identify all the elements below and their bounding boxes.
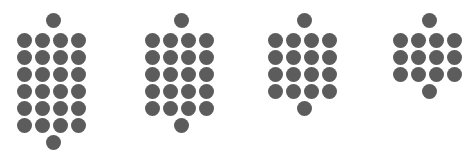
cluster-dot — [447, 33, 462, 48]
cluster-dot — [199, 50, 214, 65]
cluster-dot — [53, 84, 68, 99]
cluster-dot — [304, 50, 319, 65]
cluster-dot — [163, 50, 178, 65]
cluster-dot — [71, 84, 86, 99]
cluster-group-4 — [0, 0, 472, 156]
cluster-dot — [393, 33, 408, 48]
cluster-group-1 — [0, 0, 472, 156]
cluster-dot — [268, 84, 283, 99]
cluster-dot — [35, 50, 50, 65]
cluster-dot — [71, 67, 86, 82]
cluster-dot-bottom-cap — [174, 118, 189, 133]
cluster-dot — [163, 67, 178, 82]
cluster-dot — [268, 50, 283, 65]
cluster-dot — [145, 33, 160, 48]
cluster-dot — [393, 67, 408, 82]
cluster-dot — [163, 84, 178, 99]
cluster-dot — [393, 50, 408, 65]
cluster-group-2 — [0, 0, 472, 156]
cluster-dot — [447, 67, 462, 82]
cluster-dot — [163, 101, 178, 116]
cluster-group-3 — [0, 0, 472, 156]
cluster-dot — [17, 50, 32, 65]
cluster-dot — [53, 33, 68, 48]
cluster-dot — [447, 50, 462, 65]
cluster-dot — [53, 101, 68, 116]
cluster-dot — [35, 101, 50, 116]
cluster-dot — [429, 67, 444, 82]
cluster-dot — [268, 33, 283, 48]
cluster-dot — [71, 101, 86, 116]
cluster-dot — [199, 101, 214, 116]
cluster-dot-top-cap — [174, 13, 189, 28]
cluster-dot — [145, 67, 160, 82]
cluster-dot — [53, 118, 68, 133]
cluster-dot-top-cap — [422, 13, 437, 28]
cluster-dot — [322, 67, 337, 82]
cluster-dot — [304, 84, 319, 99]
cluster-dot-bottom-cap — [297, 101, 312, 116]
cluster-dot — [181, 50, 196, 65]
cluster-dot — [181, 67, 196, 82]
cluster-dot — [35, 118, 50, 133]
cluster-dot — [304, 33, 319, 48]
cluster-dot — [17, 67, 32, 82]
cluster-dot — [286, 67, 301, 82]
cluster-dot — [199, 84, 214, 99]
cluster-dot — [163, 33, 178, 48]
cluster-dot — [35, 33, 50, 48]
cluster-dot — [322, 33, 337, 48]
cluster-dot — [429, 33, 444, 48]
cluster-dot — [53, 50, 68, 65]
cluster-dot — [71, 33, 86, 48]
cluster-dot-bottom-cap — [422, 84, 437, 99]
cluster-dot — [322, 50, 337, 65]
cluster-dot — [429, 50, 444, 65]
cluster-dot-top-cap — [46, 13, 61, 28]
cluster-dot — [35, 67, 50, 82]
cluster-dot — [268, 67, 283, 82]
cluster-dot — [181, 84, 196, 99]
cluster-dot — [286, 84, 301, 99]
cluster-dot — [53, 67, 68, 82]
cluster-dot — [145, 101, 160, 116]
cluster-dot — [286, 50, 301, 65]
cluster-dot — [181, 33, 196, 48]
cluster-dot — [181, 101, 196, 116]
cluster-dot — [199, 67, 214, 82]
cluster-dot-top-cap — [297, 13, 312, 28]
cluster-dot — [322, 84, 337, 99]
cluster-dot — [145, 84, 160, 99]
cluster-dot — [17, 33, 32, 48]
cluster-dot — [145, 50, 160, 65]
cluster-dot — [17, 118, 32, 133]
cluster-dot — [199, 33, 214, 48]
cluster-dot — [71, 118, 86, 133]
cluster-dot — [411, 33, 426, 48]
cluster-dot — [71, 50, 86, 65]
cluster-dot — [411, 50, 426, 65]
dot-diagram-canvas — [0, 0, 472, 156]
cluster-dot — [17, 84, 32, 99]
cluster-dot — [304, 67, 319, 82]
cluster-dot — [17, 101, 32, 116]
cluster-dot — [35, 84, 50, 99]
cluster-dot — [286, 33, 301, 48]
cluster-dot-bottom-cap — [46, 135, 61, 150]
cluster-dot — [411, 67, 426, 82]
